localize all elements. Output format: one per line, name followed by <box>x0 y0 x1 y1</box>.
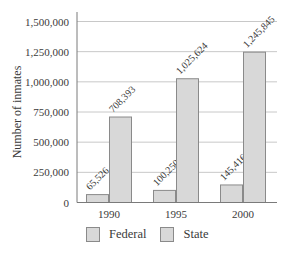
y-tick-label: 0 <box>64 197 70 209</box>
y-tick-label: 1,250,000 <box>25 46 70 58</box>
legend-swatch-federal <box>86 227 100 242</box>
bar-state-2000 <box>244 52 266 202</box>
bars: 65,526708,393100,2501,025,624145,4161,24… <box>84 14 277 203</box>
legend: Federal State <box>86 227 222 242</box>
data-label: 1,245,845 <box>241 14 277 50</box>
x-tick-label: 1990 <box>98 208 121 220</box>
legend-item-federal: Federal <box>86 227 146 242</box>
x-axis-ticks: 199019952000 <box>98 208 255 220</box>
y-axis-ticks: 0250,000500,000750,0001,000,0001,250,000… <box>25 16 70 209</box>
y-tick-label: 750,000 <box>33 106 69 118</box>
y-axis-title: Number of inmates <box>10 65 24 158</box>
bar-federal-2000 <box>221 185 243 203</box>
y-tick-label: 250,000 <box>33 166 69 178</box>
legend-item-state: State <box>160 227 208 242</box>
legend-swatch-state <box>160 227 174 242</box>
data-label: 708,393 <box>107 84 138 115</box>
data-label: 65,526 <box>84 165 111 192</box>
data-label: 1,025,624 <box>174 40 210 76</box>
bar-federal-1995 <box>154 190 176 202</box>
y-tick-label: 1,500,000 <box>25 16 70 28</box>
y-tick-label: 500,000 <box>33 136 69 148</box>
legend-label-state: State <box>183 227 208 242</box>
bar-chart: 0250,000500,000750,0001,000,0001,250,000… <box>0 0 290 257</box>
x-tick-label: 1995 <box>165 208 188 220</box>
x-tick-label: 2000 <box>232 208 255 220</box>
legend-label-federal: Federal <box>109 227 146 242</box>
bar-state-1995 <box>177 79 199 203</box>
bar-federal-1990 <box>87 195 109 203</box>
y-tick-label: 1,000,000 <box>25 76 70 88</box>
bar-state-1990 <box>110 117 132 202</box>
